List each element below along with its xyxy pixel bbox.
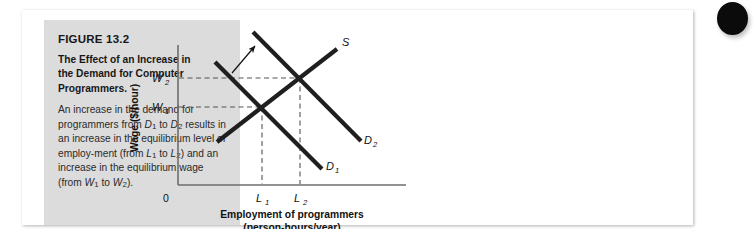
y-tick-label-w1-sub: 1 — [165, 107, 169, 116]
curve-label-demand-2-sub: 2 — [372, 140, 378, 149]
demand-shift-arrow — [232, 46, 255, 73]
origin-label: 0 — [163, 192, 169, 204]
x-tick-label-l2: L — [294, 192, 300, 204]
chart-svg: W 2 W 1 0 L 1 L 2 S D 1 D 2 Wage ($/hour… — [100, 10, 480, 229]
curve-label-demand-1-sub: 1 — [335, 166, 339, 175]
curve-label-demand-2: D — [364, 134, 372, 146]
x-tick-label-l2-sub: 2 — [302, 198, 308, 207]
y-tick-label-w2-sub: 2 — [164, 78, 170, 87]
curve-label-supply: S — [342, 36, 350, 48]
demand-curve-2 — [253, 32, 361, 141]
figure-card: FIGURE 13.2 The Effect of an Increase in… — [22, 10, 693, 225]
curve-label-demand-1: D — [326, 160, 334, 172]
figure-page: FIGURE 13.2 The Effect of an Increase in… — [0, 0, 756, 229]
supply-curve — [217, 49, 337, 142]
supply-demand-chart: W 2 W 1 0 L 1 L 2 S D 1 D 2 Wage ($/hour… — [100, 10, 480, 229]
x-tick-label-l1-sub: 1 — [265, 198, 269, 207]
page-edge-artifact — [717, 2, 748, 35]
x-axis-title-line-2: (person-hours/year) — [243, 222, 340, 229]
y-axis-title: Wage ($/hour) — [129, 84, 140, 152]
y-tick-label-w1: W — [152, 101, 164, 113]
x-axis-title-line-1: Employment of programmers — [220, 209, 364, 220]
y-tick-label-w2: W — [152, 72, 164, 84]
x-tick-label-l1: L — [256, 192, 262, 204]
